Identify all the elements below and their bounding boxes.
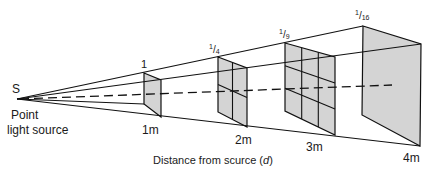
- axis-title-prefix: Distance from scurce (: [153, 154, 263, 166]
- intensity-label-3m: 1/9: [279, 28, 290, 40]
- fraction-numerator: 1: [279, 28, 283, 35]
- axis-title-suffix: ): [269, 154, 273, 166]
- axis-title: Distance from scurce (d): [153, 155, 273, 166]
- fraction-numerator: 1: [209, 43, 213, 50]
- intensity-label-2m: 1/4: [209, 43, 220, 55]
- distance-label-1m: 1m: [142, 124, 159, 136]
- inverse-square-diagram: S Point light source 1 1/4 1/9 1/16 1m 2…: [0, 0, 431, 179]
- intensity-label-4m: 1/16: [355, 9, 369, 21]
- distance-label-4m: 4m: [403, 152, 420, 164]
- distance-label-2m: 2m: [235, 134, 252, 146]
- source-label-line1: Point: [11, 109, 38, 121]
- intensity-label-1m: 1: [141, 59, 147, 70]
- source-label-line2: light source: [7, 124, 68, 136]
- fraction-denominator: 16: [362, 14, 370, 21]
- distance-label-3m: 3m: [306, 141, 323, 153]
- diagram-canvas: [0, 0, 431, 179]
- fraction-numerator: 1: [355, 9, 359, 16]
- source-symbol: S: [12, 83, 20, 95]
- fraction-denominator: 4: [216, 48, 220, 55]
- fraction-denominator: 9: [286, 33, 290, 40]
